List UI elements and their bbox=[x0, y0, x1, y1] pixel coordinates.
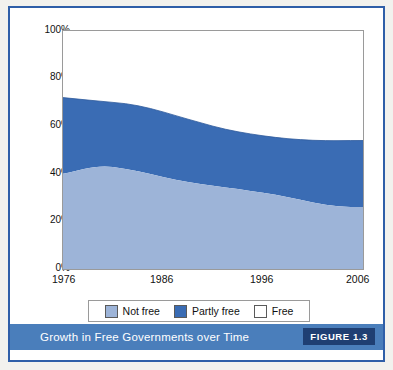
figure-caption: Growth in Free Governments over Time bbox=[40, 331, 249, 343]
x-axis-tick-label: 1976 bbox=[52, 273, 75, 285]
x-axis-tick-label: 1986 bbox=[150, 273, 173, 285]
legend-item-free: Free bbox=[254, 305, 294, 318]
x-axis-tick-label: 1996 bbox=[250, 273, 273, 285]
legend-swatch-icon bbox=[105, 305, 118, 318]
legend-swatch-icon bbox=[174, 305, 187, 318]
legend-label: Not free bbox=[123, 305, 160, 317]
chart-legend: Not free Partly free Free bbox=[88, 300, 310, 322]
plot-svg bbox=[63, 31, 363, 269]
figure-number-badge: FIGURE 1.3 bbox=[303, 328, 375, 345]
legend-item-partly-free: Partly free bbox=[174, 305, 240, 318]
legend-item-not-free: Not free bbox=[105, 305, 160, 318]
stacked-area-plot bbox=[62, 30, 364, 270]
legend-label: Partly free bbox=[192, 305, 240, 317]
x-axis-tick-label: 2006 bbox=[346, 273, 369, 285]
legend-swatch-icon bbox=[254, 305, 267, 318]
legend-label: Free bbox=[272, 305, 294, 317]
figure-caption-bar: Growth in Free Governments over Time FIG… bbox=[10, 324, 383, 350]
chart-area: 100% 80% 60% 40% 20% 0% 1976 1986 1996 2… bbox=[22, 18, 374, 288]
figure-container: 100% 80% 60% 40% 20% 0% 1976 1986 1996 2… bbox=[8, 6, 385, 362]
